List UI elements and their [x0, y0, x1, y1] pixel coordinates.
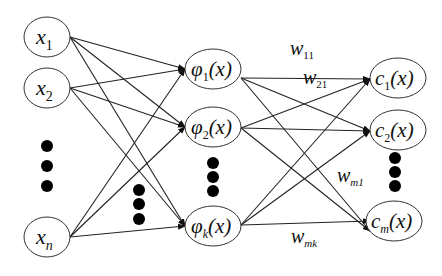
output-node-2: c2(x): [370, 110, 426, 150]
hidden-node-2: φ2(x): [185, 107, 241, 147]
input-hidden-edges: [70, 37, 185, 237]
hidden-node-k: φk(x): [185, 206, 241, 246]
weight-label-wm1: wm1: [337, 164, 364, 188]
input-ellipsis-icon: [41, 140, 53, 192]
hidden-ellipsis-icon: [207, 157, 219, 197]
weight-label-w21: w21: [303, 66, 327, 90]
output-node-m: cm(x): [366, 201, 422, 241]
weight-label-w11: w11: [290, 37, 314, 61]
weight-label-wmk: wmk: [291, 225, 318, 249]
input-node-n: xn: [24, 217, 70, 257]
svg-text:wm1: wm1: [337, 164, 364, 188]
svg-text:c2(x): c2(x): [375, 118, 414, 145]
svg-text:wmk: wmk: [291, 225, 318, 249]
svg-text:c1(x): c1(x): [375, 66, 414, 93]
svg-text:w11: w11: [290, 37, 314, 61]
input-node-2: x2: [24, 68, 70, 108]
output-node-1: c1(x): [370, 58, 426, 98]
svg-text:φk(x): φk(x): [191, 214, 231, 241]
edge-ellipsis-icon: [133, 184, 145, 225]
hidden-node-1: φ1(x): [185, 49, 241, 89]
output-ellipsis-icon: [389, 152, 401, 192]
svg-text:w21: w21: [303, 66, 327, 90]
svg-text:cm(x): cm(x): [371, 209, 412, 236]
input-node-1: x1: [24, 17, 70, 57]
svg-text:φ1(x): φ1(x): [191, 57, 232, 84]
hidden-output-edges: [241, 78, 370, 231]
rbf-network-diagram: x1 x2 xn φ1(x) φ2(x) φk(x) c1(x): [0, 0, 442, 276]
svg-text:φ2(x): φ2(x): [191, 115, 232, 142]
